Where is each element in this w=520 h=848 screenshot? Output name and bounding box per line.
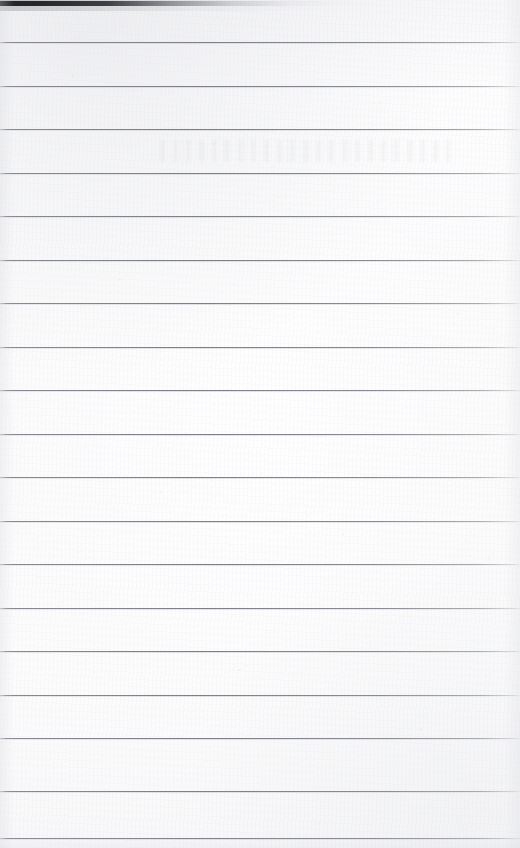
rule-line	[0, 477, 520, 478]
rule-line	[0, 173, 520, 174]
scanned-page	[0, 0, 520, 848]
rule-line	[0, 791, 520, 792]
rule-line	[0, 738, 520, 739]
rule-line	[0, 42, 520, 43]
rule-line	[0, 434, 520, 435]
rule-line	[0, 521, 520, 522]
rule-line	[0, 86, 520, 87]
rule-line	[0, 651, 520, 652]
rule-line	[0, 129, 520, 130]
rule-line	[0, 695, 520, 696]
rule-line	[0, 564, 520, 565]
rule-line	[0, 838, 520, 839]
rule-line	[0, 608, 520, 609]
rule-line	[0, 303, 520, 304]
ruled-lines-layer	[0, 0, 520, 848]
rule-line	[0, 260, 520, 261]
rule-line	[0, 347, 520, 348]
rule-line	[0, 216, 520, 217]
rule-line	[0, 390, 520, 391]
scanner-edge-shadow-feather	[0, 6, 520, 11]
